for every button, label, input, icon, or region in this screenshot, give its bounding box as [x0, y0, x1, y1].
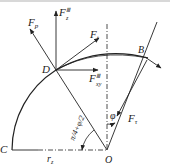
svg-text:rz: rz	[47, 153, 54, 165]
slip-arc	[12, 54, 148, 150]
svg-text:Fτ: Fτ	[127, 112, 138, 126]
arc-tangent-arrow	[145, 57, 161, 68]
inner-curve	[56, 55, 148, 70]
label-rz: rz	[47, 153, 54, 165]
force-arrow-ft-b	[117, 60, 147, 116]
svg-text:Ⅲ: Ⅲ	[66, 7, 71, 13]
svg-text:Ft: Ft	[89, 28, 100, 42]
svg-text:Fp: Fp	[27, 16, 39, 30]
svg-text:F: F	[58, 6, 66, 18]
angle-phi-label: φ	[110, 110, 116, 121]
diagram-canvas: C O D B Fp F Ⅲ z Ft F Ⅲ xy Fτ φ π/4+φ/2 …	[0, 0, 170, 168]
point-label-o: O	[105, 154, 112, 165]
point-label-b: B	[138, 44, 144, 55]
svg-text:xy: xy	[95, 81, 102, 87]
point-label-c: C	[0, 143, 8, 155]
point-label-d: D	[41, 63, 50, 75]
angle-arc-expr	[82, 130, 94, 150]
label-fz: F Ⅲ z	[58, 6, 71, 21]
angle-arc-phi	[107, 123, 115, 124]
svg-text:Ⅲ: Ⅲ	[96, 73, 101, 79]
force-arrow-ft-d	[56, 38, 99, 70]
label-fp: Fp	[27, 16, 39, 30]
label-ft-d: Ft	[89, 28, 100, 42]
label-fxy: F Ⅲ xy	[88, 72, 102, 87]
svg-text:z: z	[65, 15, 69, 21]
line-o-b	[107, 22, 157, 150]
svg-text:F: F	[88, 72, 96, 84]
angle-expr-label: π/4+φ/2	[68, 114, 87, 142]
label-ft-b: Fτ	[127, 112, 138, 126]
